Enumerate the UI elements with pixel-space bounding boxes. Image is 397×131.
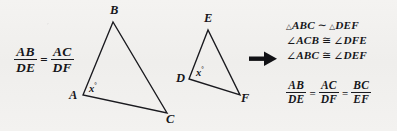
vertex-label-A: A	[69, 88, 77, 103]
congruent-to-icon: ≅	[319, 50, 333, 61]
angle-abc-text: ABC	[296, 50, 319, 61]
angle-def-text: DEF	[343, 50, 367, 61]
equals-sign: =	[339, 87, 351, 99]
conclusion-angle-acb-dfe: ∠ ACB ≅ ∠ DFE	[286, 33, 394, 48]
fraction-numerator: AC	[319, 80, 339, 92]
conclusion-similarity: △ ABC ∼ △ DEF	[286, 18, 394, 33]
triangle-def-text: DEF	[335, 20, 359, 31]
angle-dfe-text: DFE	[343, 35, 367, 46]
equals-sign: =	[306, 87, 318, 99]
conclusion-angle-abc-def: ∠ ABC ≅ ∠ DEF	[286, 48, 394, 63]
vertex-label-B: B	[110, 3, 118, 18]
triangle-icon: △	[329, 23, 335, 31]
similar-triangles-figure: AB DE = AC DF A B C x° D E F	[0, 0, 397, 131]
fraction-denominator: DE	[286, 92, 306, 106]
vertex-label-C: C	[166, 112, 174, 127]
vertex-label-D: D	[176, 71, 185, 86]
bottom-ratio-equation: AB DE = AC DF = BC EF	[286, 80, 371, 106]
angle-icon: ∠	[286, 35, 296, 47]
degree-symbol: °	[94, 81, 97, 88]
angle-icon: ∠	[333, 50, 343, 62]
fraction-ab-over-de: AB DE	[286, 80, 306, 106]
triangle-ABC-shape	[83, 22, 167, 113]
angle-icon: ∠	[333, 35, 343, 47]
similar-to-icon: ∼	[315, 20, 329, 31]
fraction-denominator: EF	[351, 92, 371, 106]
angle-icon: ∠	[286, 50, 296, 62]
implies-arrow-icon	[249, 52, 277, 66]
angle-label-x-def: x°	[196, 65, 204, 78]
vertex-label-E: E	[204, 11, 212, 26]
angle-label-x-abc: x°	[89, 81, 97, 94]
fraction-numerator: AB	[286, 80, 306, 92]
fraction-bc-over-ef: BC EF	[351, 80, 371, 106]
triangle-icon: △	[286, 23, 292, 31]
fraction-numerator: BC	[351, 80, 371, 92]
fraction-denominator: DF	[319, 92, 339, 106]
angle-acb-text: ACB	[296, 35, 319, 46]
triangle-DEF-shape	[189, 30, 240, 95]
fraction-ac-over-df: AC DF	[319, 80, 339, 106]
conclusions-list: △ ABC ∼ △ DEF ∠ ACB ≅ ∠ DFE ∠ ABC ≅ ∠ DE…	[286, 18, 394, 63]
degree-symbol: °	[201, 65, 204, 72]
congruent-to-icon: ≅	[319, 35, 333, 46]
vertex-label-F: F	[241, 91, 249, 106]
triangle-abc-text: ABC	[292, 20, 315, 31]
